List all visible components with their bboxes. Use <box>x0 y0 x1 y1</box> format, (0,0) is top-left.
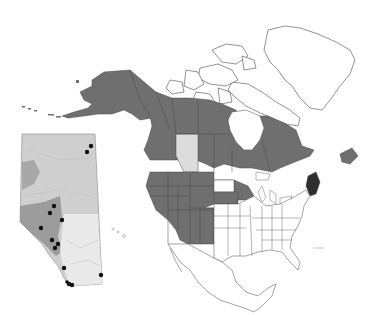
hawaii <box>112 228 126 238</box>
occurrence-point <box>89 144 93 148</box>
occurrence-point <box>85 150 89 154</box>
newfoundland <box>340 148 358 164</box>
alberta-inset <box>20 134 103 287</box>
occurrence-point <box>50 238 54 242</box>
alberta <box>176 134 198 172</box>
occurrence-point <box>53 246 57 250</box>
range-map <box>0 0 372 315</box>
occurrence-point <box>60 218 64 222</box>
occurrence-point <box>62 266 66 270</box>
occurrence-point <box>99 273 103 277</box>
maine <box>306 172 320 196</box>
aleutian-islands <box>22 80 79 118</box>
south-dakota <box>214 192 238 204</box>
scale-label: ▭▭▭ <box>313 245 324 250</box>
occurrence-point <box>70 283 74 287</box>
great-lakes <box>256 172 292 204</box>
inset-light-zone <box>60 214 102 286</box>
occurrence-point <box>56 242 60 246</box>
occurrence-point <box>65 280 69 284</box>
north-dakota <box>214 180 234 192</box>
occurrence-point <box>48 211 52 215</box>
occurrence-point <box>52 204 56 208</box>
occurrence-point <box>39 226 43 230</box>
greenland <box>264 26 355 110</box>
